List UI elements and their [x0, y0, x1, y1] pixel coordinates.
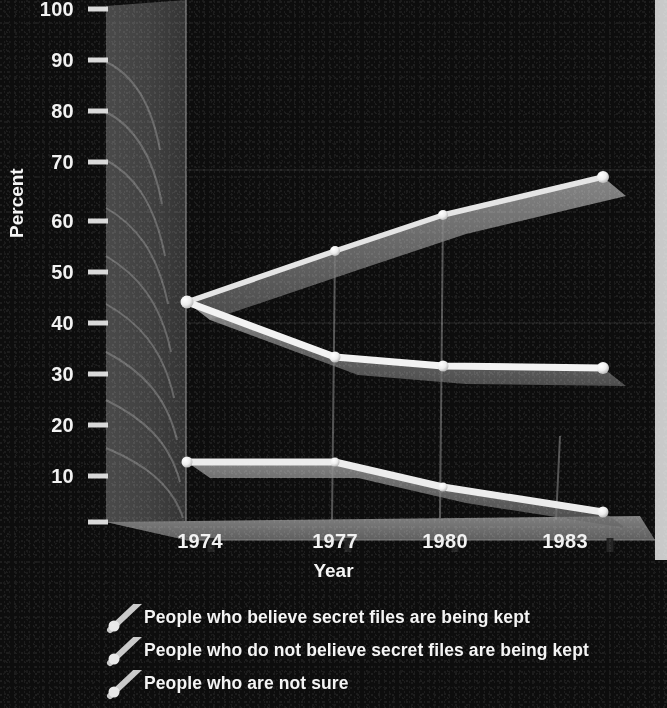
- y-tick-label: 10: [14, 465, 74, 488]
- y-tick-label: 100: [14, 0, 74, 21]
- chart-plot-area: [0, 0, 667, 708]
- plot-back-wall: [106, 0, 186, 540]
- y-axis-ticks: [88, 9, 108, 522]
- y-tick-label: 80: [14, 100, 74, 123]
- y-tick-label: 20: [14, 414, 74, 437]
- x-axis-label: Year: [0, 560, 667, 582]
- legend-label: People who are not sure: [144, 673, 349, 694]
- legend-item[interactable]: People who believe secret files are bein…: [104, 604, 664, 637]
- chart-figure: 100 90 80 70 60 50 40 30 20 10 Percent 1…: [0, 0, 667, 708]
- x-tick-label: 1977: [290, 530, 380, 553]
- x-tick-label: 1983: [520, 530, 610, 553]
- y-tick-label: 90: [14, 49, 74, 72]
- legend-item[interactable]: People who do not believe secret files a…: [104, 637, 664, 670]
- y-tick-label: 40: [14, 312, 74, 335]
- x-tick-label: 1974: [155, 530, 245, 553]
- legend-item[interactable]: People who are not sure: [104, 670, 664, 703]
- chart-legend: People who believe secret files are bein…: [104, 604, 664, 703]
- series-believe: [181, 171, 626, 320]
- series-do-not-believe: [181, 296, 627, 387]
- y-tick-label: 30: [14, 363, 74, 386]
- y-tick-label: 50: [14, 261, 74, 284]
- legend-label: People who believe secret files are bein…: [144, 607, 530, 628]
- legend-label: People who do not believe secret files a…: [144, 640, 589, 661]
- right-border: [655, 0, 667, 560]
- y-axis-label: Percent: [6, 168, 28, 238]
- x-tick-label: 1980: [400, 530, 490, 553]
